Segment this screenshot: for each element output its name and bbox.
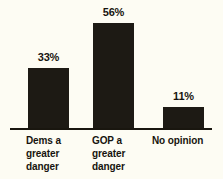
bar-value-label: 11% [163,90,204,102]
bar-dems-a-greater-danger [28,68,69,128]
bar-no-opinion [163,107,204,128]
x-axis-line [10,128,212,130]
x-tick-label: Dems a greater danger [26,134,86,173]
x-tick-label: GOP a greater danger [92,134,152,173]
bar-value-label: 33% [28,51,69,63]
bar-value-label: 56% [93,6,134,18]
x-tick-label: No opinion [152,134,223,147]
plot-area: 33% 56% 11% Dems a greater danger GOP a … [0,0,223,179]
bar-chart: 33% 56% 11% Dems a greater danger GOP a … [0,0,223,179]
bar-gop-a-greater-danger [93,23,134,128]
